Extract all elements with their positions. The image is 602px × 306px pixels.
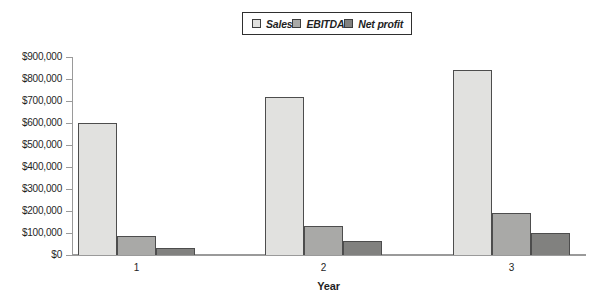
bar-ebitda-year-2 — [304, 226, 343, 255]
bar-chart: SalesEBITDANet profit $0$100,000$200,000… — [0, 0, 602, 306]
bar-net-profit-year-1 — [156, 248, 195, 255]
x-tick-label-year-2: 2 — [304, 262, 344, 273]
legend-swatch-net-profit — [344, 19, 353, 28]
legend-label-sales: Sales — [266, 18, 292, 30]
bar-net-profit-year-3 — [531, 233, 570, 255]
chart-legend: SalesEBITDANet profit — [242, 12, 412, 35]
x-tick-label-year-3: 3 — [492, 262, 532, 273]
y-tick-label-100000: $100,000 — [0, 228, 62, 238]
y-tick-label-800000: $800,000 — [0, 74, 62, 84]
x-axis-title: Year — [72, 280, 585, 292]
y-tick-label-600000: $600,000 — [0, 118, 62, 128]
legend-swatch-sales — [252, 19, 261, 28]
y-tick-label-300000: $300,000 — [0, 184, 62, 194]
legend-item-ebitda: EBITDA — [292, 18, 344, 30]
y-tick-label-400000: $400,000 — [0, 162, 62, 172]
plot-area — [72, 57, 585, 255]
bar-ebitda-year-3 — [492, 213, 531, 255]
y-tick-label-0: $0 — [0, 250, 62, 260]
legend-label-net-profit: Net profit — [358, 18, 403, 30]
x-tick-label-year-1: 1 — [117, 262, 157, 273]
y-tick-label-900000: $900,000 — [0, 52, 62, 62]
y-tick-label-200000: $200,000 — [0, 206, 62, 216]
legend-label-ebitda: EBITDA — [306, 18, 344, 30]
legend-item-sales: Sales — [252, 18, 292, 30]
bar-sales-year-2 — [265, 97, 304, 255]
bar-ebitda-year-1 — [117, 236, 156, 255]
bar-sales-year-3 — [453, 70, 492, 255]
legend-swatch-ebitda — [292, 19, 301, 28]
bar-net-profit-year-2 — [343, 241, 382, 255]
y-tick-label-500000: $500,000 — [0, 140, 62, 150]
bar-sales-year-1 — [78, 123, 117, 255]
legend-item-net-profit: Net profit — [344, 18, 403, 30]
y-tick-label-700000: $700,000 — [0, 96, 62, 106]
